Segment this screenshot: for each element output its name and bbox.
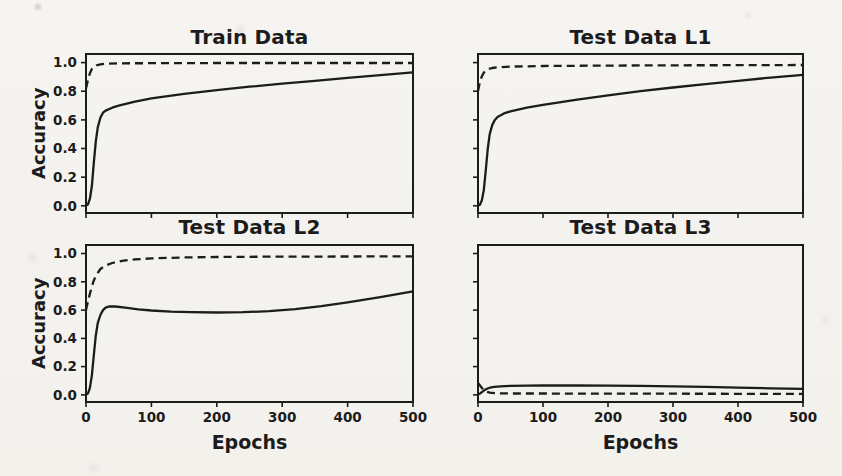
- y-axis-label-train-data: Accuracy: [26, 54, 50, 213]
- svg-text:500: 500: [789, 409, 817, 425]
- figure-canvas: Train Data Test Data L1 Test Data L2 Tes…: [0, 0, 842, 476]
- test-data-l3-plot: 0100200300400500: [478, 245, 803, 402]
- svg-text:100: 100: [529, 409, 557, 425]
- x-axis-label-test-data-l2: Epochs: [86, 429, 413, 455]
- svg-text:400: 400: [724, 409, 752, 425]
- svg-text:0.0: 0.0: [53, 387, 77, 403]
- svg-text:0.6: 0.6: [53, 302, 77, 318]
- svg-text:200: 200: [203, 409, 231, 425]
- svg-text:0.8: 0.8: [53, 274, 77, 290]
- svg-text:0.6: 0.6: [53, 112, 77, 128]
- svg-text:300: 300: [268, 409, 296, 425]
- chart-title-test-data-l1: Test Data L1: [478, 22, 803, 52]
- svg-text:500: 500: [399, 409, 427, 425]
- y-axis-label-test-data-l2: Accuracy: [26, 245, 50, 402]
- svg-text:100: 100: [137, 409, 165, 425]
- train-data-plot: 0.00.20.40.60.81.0: [86, 54, 413, 213]
- svg-text:0.4: 0.4: [53, 330, 77, 346]
- svg-text:0: 0: [81, 409, 90, 425]
- svg-text:0.2: 0.2: [53, 169, 77, 185]
- svg-text:200: 200: [594, 409, 622, 425]
- chart-title-test-data-l3: Test Data L3: [478, 212, 803, 242]
- chart-title-train-data: Train Data: [86, 22, 413, 52]
- svg-text:1.0: 1.0: [53, 245, 77, 261]
- test-data-l2-plot: 01002003004005000.00.20.40.60.81.0: [86, 245, 413, 402]
- svg-text:0.8: 0.8: [53, 83, 77, 99]
- svg-text:1.0: 1.0: [53, 54, 77, 70]
- chart-title-test-data-l2: Test Data L2: [86, 212, 413, 242]
- x-axis-label-test-data-l3: Epochs: [478, 429, 803, 455]
- svg-text:0.2: 0.2: [53, 358, 77, 374]
- svg-text:0: 0: [473, 409, 482, 425]
- svg-text:400: 400: [334, 409, 362, 425]
- svg-text:300: 300: [659, 409, 687, 425]
- svg-text:0.4: 0.4: [53, 140, 77, 156]
- svg-text:0.0: 0.0: [53, 198, 77, 214]
- test-data-l1-plot: [478, 54, 803, 213]
